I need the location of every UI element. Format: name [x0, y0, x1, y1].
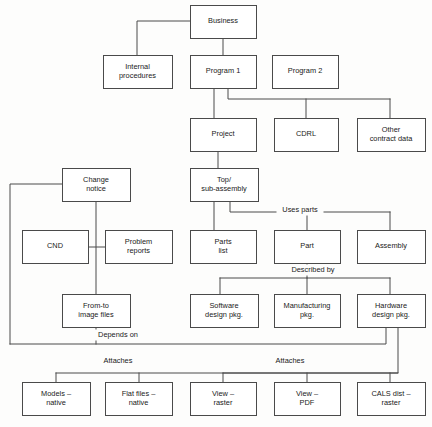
node-manufacturing-pkg[interactable]: Manufacturingpkg.: [275, 295, 341, 328]
edge-label-text-attaches-left: Attaches: [104, 356, 133, 365]
node-business[interactable]: Business: [191, 6, 257, 39]
node-label-flat-files-native: Flat files –: [122, 389, 157, 398]
edge-label-uses-parts: Uses parts: [277, 205, 324, 216]
node-label-hardware-design-pkg: design pkg.: [372, 310, 410, 319]
node-top-sub-assembly[interactable]: Top/sub-assembly: [191, 169, 259, 202]
node-label-view-raster: raster: [214, 398, 233, 407]
connector-depends-on-bus: [10, 327, 386, 344]
node-label-software-design-pkg: design pkg.: [205, 310, 243, 319]
node-label-assembly: Assembly: [375, 241, 407, 250]
node-label-parts-list: Parts: [214, 237, 232, 246]
node-cnd[interactable]: CND: [23, 231, 89, 264]
node-hardware-design-pkg[interactable]: Hardwaredesign pkg.: [358, 295, 426, 328]
node-label-models-native: Models –: [41, 389, 72, 398]
node-label-manufacturing-pkg: pkg.: [300, 310, 314, 319]
node-parts-list[interactable]: Partslist: [191, 231, 257, 264]
node-label-cals-dist-raster: CALS dist –: [371, 389, 411, 398]
nodes-layer: BusinessInternalproceduresProgram 1Progr…: [23, 6, 426, 416]
edge-label-text-attaches-right: Attaches: [276, 356, 305, 365]
node-label-cnd: CND: [47, 241, 63, 250]
node-label-other-contract-data: Other: [382, 125, 401, 134]
node-label-flat-files-native: native: [129, 398, 149, 407]
node-from-to-image-files[interactable]: From-toimage files: [63, 295, 131, 328]
node-view-raster[interactable]: View –raster: [191, 383, 257, 416]
node-label-program-1: Program 1: [206, 66, 241, 75]
node-label-problem-reports: Problem: [125, 237, 153, 246]
edge-label-depends-on: Depends on: [95, 330, 142, 341]
node-label-models-native: native: [46, 398, 66, 407]
node-label-software-design-pkg: Software: [209, 301, 238, 310]
node-label-cdrl: CDRL: [296, 129, 316, 138]
diagram-canvas: BusinessInternalproceduresProgram 1Progr…: [0, 0, 432, 427]
node-label-from-to-image-files: From-to: [83, 301, 109, 310]
node-cdrl[interactable]: CDRL: [275, 119, 339, 152]
node-label-top-sub-assembly: sub-assembly: [201, 184, 247, 193]
node-label-project: Project: [211, 129, 234, 138]
node-label-change-notice: notice: [86, 184, 106, 193]
node-part[interactable]: Part: [275, 231, 341, 264]
node-label-business: Business: [208, 16, 238, 25]
connector-program-1-bus: [228, 88, 390, 99]
node-flat-files-native[interactable]: Flat files –native: [106, 383, 173, 416]
node-label-top-sub-assembly: Top/: [217, 175, 232, 184]
node-project[interactable]: Project: [191, 119, 257, 152]
node-software-design-pkg[interactable]: Softwaredesign pkg.: [191, 295, 259, 328]
node-program-1[interactable]: Program 1: [191, 56, 257, 89]
node-label-internal-procedures: Internal: [125, 62, 150, 71]
connector-hardware-to-attaches-bus: [223, 327, 398, 373]
node-label-program-2: Program 2: [288, 66, 323, 75]
node-models-native[interactable]: Models –native: [23, 383, 91, 416]
node-change-notice[interactable]: Changenotice: [63, 169, 131, 202]
connector-business-to-internal-procedures: [137, 21, 190, 55]
node-label-problem-reports: reports: [127, 246, 150, 255]
edge-label-text-uses-parts: Uses parts: [282, 205, 318, 214]
node-internal-procedures[interactable]: Internalprocedures: [104, 56, 173, 89]
node-label-other-contract-data: contract data: [370, 134, 414, 143]
edge-label-text-depends-on: Depends on: [98, 330, 138, 339]
node-label-view-pdf: View –: [296, 389, 319, 398]
edge-label-described-by: Described by: [285, 265, 340, 276]
node-program-2[interactable]: Program 2: [273, 56, 339, 89]
node-assembly[interactable]: Assembly: [358, 231, 426, 264]
node-problem-reports[interactable]: Problemreports: [106, 231, 173, 264]
node-cals-dist-raster[interactable]: CALS dist –raster: [358, 383, 426, 416]
node-other-contract-data[interactable]: Othercontract data: [358, 119, 426, 152]
diagram-svg: BusinessInternalproceduresProgram 1Progr…: [0, 0, 432, 427]
node-view-pdf[interactable]: View –PDF: [275, 383, 341, 416]
node-label-view-pdf: PDF: [300, 398, 315, 407]
edge-label-attaches-left: Attaches: [99, 356, 138, 367]
node-label-parts-list: list: [218, 246, 227, 255]
node-label-view-raster: View –: [212, 389, 235, 398]
edge-labels-layer: Uses partsDescribed byDepends onAttaches…: [95, 205, 341, 367]
node-label-part: Part: [300, 241, 314, 250]
node-label-from-to-image-files: image files: [78, 310, 114, 319]
node-label-manufacturing-pkg: Manufacturing: [284, 301, 331, 310]
edge-label-attaches-right: Attaches: [271, 356, 310, 367]
node-label-hardware-design-pkg: Hardware: [375, 301, 407, 310]
node-label-cals-dist-raster: raster: [382, 398, 401, 407]
node-label-internal-procedures: procedures: [119, 71, 156, 80]
edge-label-text-described-by: Described by: [291, 265, 334, 274]
node-label-change-notice: Change: [83, 175, 109, 184]
